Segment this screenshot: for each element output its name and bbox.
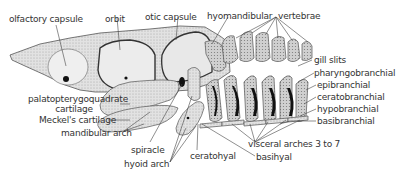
label-meckels-cartilage: Meckel's cartilage — [39, 115, 116, 125]
label-otic-capsule: otic capsule — [145, 12, 197, 22]
shark-skull-diagram: olfactory capsule orbit otic capsule hyo… — [0, 0, 396, 176]
label-gill-slits: gill slits — [314, 55, 346, 65]
label-palatopterygoquadrate-line1: palatopterygoquadrate — [28, 94, 120, 104]
visceral-arch-shapes — [200, 75, 308, 128]
label-palatopterygoquadrate: palatopterygoquadrate cartilage — [28, 94, 120, 114]
label-basihyal: basihyal — [256, 152, 292, 162]
label-visceral-arches: visceral arches 3 to 7 — [248, 139, 340, 149]
vertebrae-shapes — [222, 32, 312, 64]
label-olfactory-capsule: olfactory capsule — [9, 14, 83, 24]
label-spiracle: spiracle — [131, 145, 165, 155]
label-ceratobranchial: ceratobranchial — [317, 92, 385, 102]
label-mandibular-arch: mandibular arch — [61, 128, 132, 138]
label-hyoid-arch: hyoid arch — [124, 159, 169, 169]
label-basibranchial: basibranchial — [317, 116, 375, 126]
spiracle-shape — [179, 77, 185, 87]
label-pharyngobranchial: pharyngobranchial — [314, 68, 395, 78]
label-orbit: orbit — [105, 14, 125, 24]
label-hyomandibular: hyomandibular — [207, 11, 272, 21]
label-vertebrae: vertebrae — [278, 11, 320, 21]
label-epibranchial: epibranchial — [317, 80, 370, 90]
label-ceratohyal: ceratohyal — [190, 151, 236, 161]
label-hypobranchial: hypobranchial — [317, 104, 378, 114]
label-palatopterygoquadrate-line2: cartilage — [28, 104, 120, 114]
